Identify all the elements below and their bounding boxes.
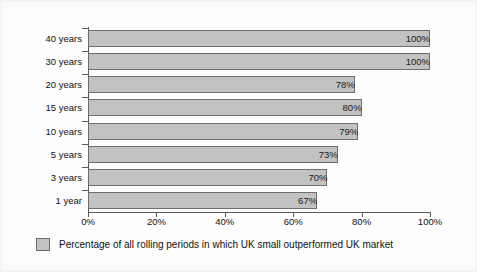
bar-row: 73%	[88, 146, 430, 163]
chart-legend: Percentage of all rolling periods in whi…	[36, 238, 393, 251]
y-axis-label: 30 years	[4, 56, 82, 67]
bar-row: 80%	[88, 99, 430, 116]
bar-value-label: 79%	[88, 124, 363, 139]
bar-row: 100%	[88, 53, 430, 70]
x-axis-tick-label: 60%	[273, 216, 313, 227]
y-axis-tick	[82, 144, 88, 145]
plot-area: 100%100%78%80%79%73%70%67%	[88, 27, 430, 212]
x-axis-tick-label: 80%	[342, 216, 382, 227]
y-axis-tick	[82, 97, 88, 98]
y-axis-tick	[82, 51, 88, 52]
bar-value-label: 100%	[88, 31, 435, 46]
x-axis-tick-label: 20%	[136, 216, 176, 227]
chart-figure: 40 years30 years20 years15 years10 years…	[0, 0, 477, 272]
y-axis-label: 1 year	[4, 195, 82, 206]
y-axis-label: 20 years	[4, 79, 82, 90]
bar-row: 100%	[88, 30, 430, 47]
x-axis-tick-label: 0%	[68, 216, 108, 227]
y-axis-tick	[82, 167, 88, 168]
bar-row: 70%	[88, 169, 430, 186]
y-axis-label: 10 years	[4, 126, 82, 137]
bar-row: 79%	[88, 123, 430, 140]
x-axis-tick-label: 100%	[410, 216, 450, 227]
x-axis-tick-label: 40%	[205, 216, 245, 227]
y-axis-tick	[82, 28, 88, 29]
x-axis-line	[88, 212, 430, 213]
bar-value-label: 73%	[88, 147, 343, 162]
bar-row: 67%	[88, 192, 430, 209]
bar-row: 78%	[88, 76, 430, 93]
y-axis-tick	[82, 190, 88, 191]
legend-swatch-icon	[36, 238, 50, 251]
y-axis-tick	[82, 121, 88, 122]
bar-value-label: 78%	[88, 77, 360, 92]
bar-value-label: 70%	[88, 170, 332, 185]
y-axis-label: 15 years	[4, 102, 82, 113]
bar-value-label: 100%	[88, 54, 435, 69]
y-axis-label: 40 years	[4, 33, 82, 44]
legend-label: Percentage of all rolling periods in whi…	[59, 239, 393, 250]
x-axis-labels: 0%20%40%60%80%100%	[88, 216, 430, 230]
y-axis-labels: 40 years30 years20 years15 years10 years…	[2, 27, 82, 212]
bar-value-label: 67%	[88, 193, 322, 208]
y-axis-label: 3 years	[4, 172, 82, 183]
bar-value-label: 80%	[88, 100, 367, 115]
y-axis-tick	[82, 74, 88, 75]
y-axis-label: 5 years	[4, 149, 82, 160]
